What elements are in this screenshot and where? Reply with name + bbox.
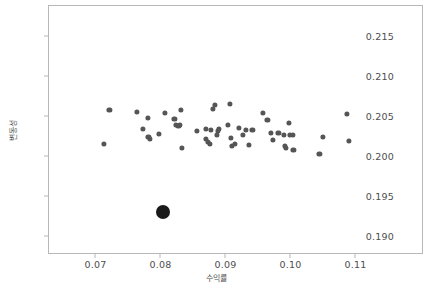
scatter-point <box>260 110 265 115</box>
y-tick-label: 0.205 <box>366 110 394 121</box>
scatter-point <box>107 108 112 113</box>
scatter-point <box>207 141 212 146</box>
scatter-point <box>268 130 273 135</box>
x-tick-mark <box>160 254 161 258</box>
x-axis-label: 수익률 <box>0 272 433 283</box>
scatter-point <box>178 108 183 113</box>
scatter-point <box>265 117 270 122</box>
x-tick-mark <box>290 254 291 258</box>
scatter-point <box>212 103 217 108</box>
scatter-point <box>194 128 199 133</box>
scatter-point <box>177 122 182 127</box>
optimal-portfolio-point <box>156 205 170 219</box>
scatter-point <box>271 137 276 142</box>
scatter-chart-figure: 0.1900.1950.2000.2050.2100.215 0.070.080… <box>0 0 433 292</box>
scatter-point <box>179 145 184 150</box>
scatter-point <box>291 147 296 152</box>
scatter-point <box>247 142 252 147</box>
scatter-point <box>284 145 289 150</box>
scatter-point <box>227 101 232 106</box>
scatter-point <box>346 138 351 143</box>
scatter-point <box>141 126 146 131</box>
data-points-layer <box>49 6 422 253</box>
x-tick-label: 0.09 <box>214 259 236 270</box>
scatter-point <box>208 127 213 132</box>
scatter-point <box>217 126 222 131</box>
x-tick-mark <box>355 254 356 258</box>
scatter-point <box>243 127 248 132</box>
y-tick-mark <box>44 156 48 157</box>
scatter-point <box>320 134 325 139</box>
x-tick-mark <box>225 254 226 258</box>
scatter-point <box>162 110 167 115</box>
scatter-point <box>281 132 286 137</box>
scatter-point <box>236 125 241 130</box>
scatter-point <box>102 142 107 147</box>
y-tick-mark <box>44 115 48 116</box>
scatter-point <box>172 117 177 122</box>
scatter-point <box>250 127 255 132</box>
scatter-point <box>228 135 233 140</box>
scatter-point <box>134 110 139 115</box>
x-tick-label: 0.08 <box>149 259 171 270</box>
x-tick-mark <box>95 254 96 258</box>
y-tick-mark <box>44 236 48 237</box>
plot-area <box>48 5 423 254</box>
y-tick-mark <box>44 75 48 76</box>
scatter-point <box>232 141 237 146</box>
scatter-point <box>317 151 322 156</box>
x-tick-label: 0.07 <box>84 259 106 270</box>
y-tick-label: 0.190 <box>366 231 394 242</box>
x-tick-label: 0.10 <box>279 259 301 270</box>
y-tick-mark <box>44 196 48 197</box>
y-tick-label: 0.195 <box>366 191 394 202</box>
scatter-point <box>147 136 152 141</box>
scatter-point <box>345 112 350 117</box>
scatter-point <box>225 122 230 127</box>
scatter-point <box>240 132 245 137</box>
scatter-point <box>145 115 150 120</box>
x-tick-label: 0.11 <box>344 259 366 270</box>
y-tick-label: 0.200 <box>366 151 394 162</box>
y-tick-label: 0.215 <box>366 30 394 41</box>
y-tick-label: 0.210 <box>366 70 394 81</box>
y-axis-label: 변동성 <box>7 120 18 141</box>
scatter-point <box>290 132 295 137</box>
y-tick-mark <box>44 35 48 36</box>
scatter-point <box>156 131 161 136</box>
scatter-point <box>286 121 291 126</box>
